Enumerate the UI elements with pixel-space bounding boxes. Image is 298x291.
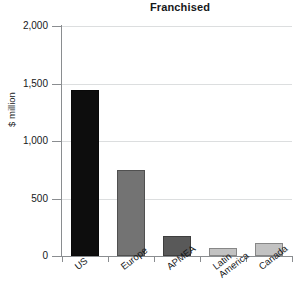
y-tick-mark	[52, 26, 61, 27]
y-tick-mark	[52, 84, 61, 85]
y-tick-label: 0	[2, 250, 48, 261]
x-tick-label-us: US	[73, 256, 90, 272]
franchised-bar-chart: Franchised $ million 05001,0001,5002,000…	[0, 0, 298, 291]
y-tick-mark	[52, 141, 61, 142]
x-tick-mark	[62, 256, 63, 262]
bars-layer	[62, 26, 292, 256]
x-tick-label-line: US	[72, 255, 89, 272]
x-tick-mark	[154, 256, 155, 262]
y-tick-label: 2,000	[2, 20, 48, 31]
y-tick-label: 1,000	[2, 135, 48, 146]
x-tick-mark	[292, 256, 293, 262]
chart-title: Franchised	[0, 1, 298, 13]
bar-us	[71, 90, 100, 256]
y-tick-label: 1,500	[2, 78, 48, 89]
y-tick-mark	[52, 199, 61, 200]
x-tick-mark	[200, 256, 201, 262]
bar-europe	[117, 170, 146, 256]
x-tick-mark	[108, 256, 109, 262]
y-tick-label: 500	[2, 193, 48, 204]
